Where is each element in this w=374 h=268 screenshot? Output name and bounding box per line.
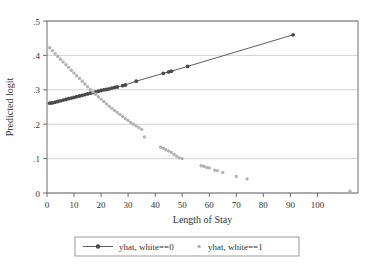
legend-marker-1 — [197, 245, 201, 249]
data-point — [221, 171, 224, 174]
legend-marker-0 — [96, 244, 100, 248]
x-tick-label: 0 — [45, 200, 50, 210]
data-point — [53, 52, 56, 55]
plot-frame — [47, 21, 358, 193]
y-tick-label: .1 — [33, 154, 40, 164]
data-point — [64, 63, 67, 66]
data-point — [70, 69, 73, 72]
data-point — [99, 97, 102, 100]
data-point — [81, 80, 84, 83]
data-point — [89, 88, 92, 91]
data-point — [170, 69, 174, 73]
data-point — [86, 85, 89, 88]
chart-legend[interactable]: yhat, white==0yhat, white==1 — [75, 237, 299, 256]
data-point — [110, 107, 113, 110]
y-tick-label: 0 — [36, 189, 41, 199]
data-series — [48, 33, 352, 193]
data-point — [72, 71, 75, 74]
data-point — [161, 71, 165, 75]
data-point — [113, 109, 116, 112]
data-point — [62, 60, 65, 63]
x-tick-label: 80 — [259, 200, 269, 210]
x-tick-label: 30 — [124, 200, 134, 210]
gridlines — [47, 21, 358, 193]
data-point — [116, 111, 119, 114]
x-tick-label: 90 — [286, 200, 296, 210]
data-point — [134, 79, 138, 83]
x-tick-label: 50 — [178, 200, 188, 210]
legend-label-0: yhat, white==0 — [119, 242, 174, 252]
data-point — [118, 113, 121, 116]
data-point — [75, 74, 78, 77]
data-point — [56, 55, 59, 58]
data-point — [91, 90, 94, 93]
data-point — [115, 85, 119, 89]
data-point — [94, 93, 97, 96]
data-point — [67, 66, 70, 69]
y-tick-label: .3 — [33, 85, 40, 95]
data-point — [143, 135, 146, 138]
y-tick-label: .2 — [33, 120, 40, 130]
data-point — [235, 175, 238, 178]
data-point — [245, 177, 248, 180]
y-tick-label: .5 — [33, 17, 40, 27]
y-axis-ticks: 0.1.2.3.4.5 — [33, 17, 47, 199]
data-point — [291, 33, 295, 37]
data-point — [137, 126, 140, 129]
data-point — [186, 65, 190, 69]
data-point — [348, 190, 351, 193]
series-2 — [48, 46, 352, 193]
chart-figure: 0102030405060708090100 0.1.2.3.4.5 Lengt… — [0, 0, 374, 268]
data-point — [59, 58, 62, 61]
y-tick-label: .4 — [33, 51, 40, 61]
x-tick-label: 60 — [205, 200, 215, 210]
data-point — [181, 157, 184, 160]
data-point — [124, 83, 128, 87]
data-point — [102, 100, 105, 103]
x-tick-label: 40 — [151, 200, 161, 210]
x-tick-label: 70 — [232, 200, 242, 210]
data-point — [108, 105, 111, 108]
data-point — [170, 151, 173, 154]
data-point — [83, 82, 86, 85]
data-point — [78, 77, 81, 80]
x-tick-label: 100 — [311, 200, 325, 210]
y-axis-title: Predicted logit — [4, 77, 15, 136]
x-axis-ticks: 0102030405060708090100 — [45, 193, 325, 210]
x-tick-label: 10 — [70, 200, 80, 210]
data-point — [208, 166, 211, 169]
data-point — [97, 95, 100, 98]
x-axis-title: Length of Stay — [173, 214, 232, 225]
data-point — [126, 119, 129, 122]
x-tick-label: 20 — [97, 200, 107, 210]
data-point — [216, 169, 219, 172]
legend-label-1: yhat, white==1 — [208, 242, 263, 252]
data-point — [51, 49, 54, 52]
data-point — [105, 102, 108, 105]
chart-canvas: 0102030405060708090100 0.1.2.3.4.5 Lengt… — [0, 0, 374, 268]
data-point — [121, 115, 124, 118]
frame-box — [47, 21, 358, 193]
data-point — [140, 128, 143, 131]
data-point — [48, 46, 51, 49]
series-1 — [48, 33, 295, 105]
